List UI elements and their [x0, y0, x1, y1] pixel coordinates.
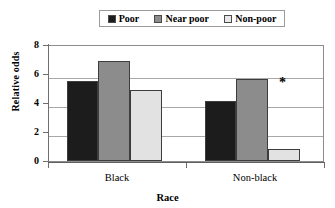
legend-item-near-poor: Near poor [154, 13, 208, 24]
legend-item-poor: Poor [108, 13, 140, 24]
y-axis-line [48, 44, 49, 163]
y-tick-4 [43, 103, 48, 104]
bar-black-near-poor [98, 61, 130, 161]
legend-swatch-non-poor [224, 15, 232, 23]
y-tick-label-4: 4 [25, 98, 39, 108]
y-tick-6 [43, 74, 48, 75]
plot-area: * [48, 45, 324, 162]
legend-item-non-poor: Non-poor [224, 13, 276, 24]
bar-black-non-poor [130, 90, 162, 161]
x-tick-mid [186, 163, 187, 168]
y-tick-label-6: 6 [25, 69, 39, 79]
chart-legend: Poor Near poor Non-poor [99, 10, 285, 27]
legend-label-near-poor: Near poor [165, 13, 208, 24]
bar-black-poor [67, 81, 98, 161]
legend-swatch-near-poor [154, 15, 162, 23]
x-label-non-black: Non-black [216, 172, 294, 184]
legend-swatch-poor [108, 15, 116, 23]
legend-label-poor: Poor [119, 13, 140, 24]
bar-non-black-near-poor [236, 79, 268, 161]
x-tick-left [48, 163, 49, 168]
legend-label-non-poor: Non-poor [235, 13, 276, 24]
y-tick-2 [43, 132, 48, 133]
y-tick-label-2: 2 [25, 127, 39, 137]
y-tick-label-0: 0 [25, 156, 39, 166]
significance-asterisk: * [279, 78, 286, 88]
x-axis-title: Race [0, 192, 335, 203]
x-label-black: Black [78, 172, 156, 184]
bar-non-black-poor [205, 101, 236, 161]
y-tick-label-8: 8 [25, 40, 39, 50]
y-tick-8 [43, 45, 48, 46]
bar-non-black-non-poor [268, 149, 300, 161]
y-axis-title: Relative odds [10, 36, 21, 128]
x-tick-right [324, 163, 325, 168]
